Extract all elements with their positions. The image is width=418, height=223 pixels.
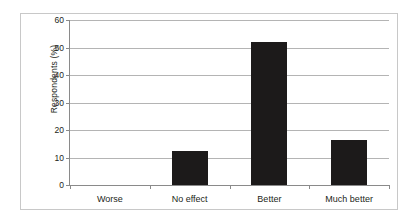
chart-frame: Respondents (%) 0102030405060 WorseNo ef… bbox=[20, 13, 398, 210]
bar bbox=[331, 140, 367, 185]
y-tick-mark bbox=[66, 103, 70, 104]
gridline bbox=[70, 130, 389, 131]
bar bbox=[172, 151, 208, 185]
x-tick-mark bbox=[230, 185, 231, 189]
y-tick-label: 20 bbox=[55, 125, 64, 135]
y-tick-mark bbox=[66, 75, 70, 76]
y-tick-label: 40 bbox=[55, 70, 64, 80]
chart-figure: Respondents (%) 0102030405060 WorseNo ef… bbox=[0, 0, 418, 223]
y-tick-mark bbox=[66, 20, 70, 21]
y-tick-label: 50 bbox=[55, 43, 64, 53]
x-tick-mark bbox=[389, 185, 390, 189]
plot-area: 0102030405060 WorseNo effectBetterMuch b… bbox=[70, 20, 389, 185]
y-tick-label: 60 bbox=[55, 15, 64, 25]
x-tick-mark bbox=[70, 185, 71, 189]
y-tick-label: 30 bbox=[55, 98, 64, 108]
bar bbox=[251, 42, 287, 185]
x-tick-label: Much better bbox=[325, 194, 373, 204]
gridline bbox=[70, 75, 389, 76]
x-tick-mark bbox=[309, 185, 310, 189]
x-tick-mark bbox=[150, 185, 151, 189]
x-tick-label: Worse bbox=[97, 194, 123, 204]
gridline bbox=[70, 20, 389, 21]
gridline bbox=[70, 103, 389, 104]
y-tick-mark bbox=[66, 130, 70, 131]
gridline bbox=[70, 48, 389, 49]
y-tick-label: 0 bbox=[59, 180, 64, 190]
y-tick-label: 10 bbox=[55, 153, 64, 163]
y-tick-mark bbox=[66, 48, 70, 49]
x-tick-label: Better bbox=[257, 194, 281, 204]
x-tick-label: No effect bbox=[172, 194, 208, 204]
y-tick-mark bbox=[66, 158, 70, 159]
